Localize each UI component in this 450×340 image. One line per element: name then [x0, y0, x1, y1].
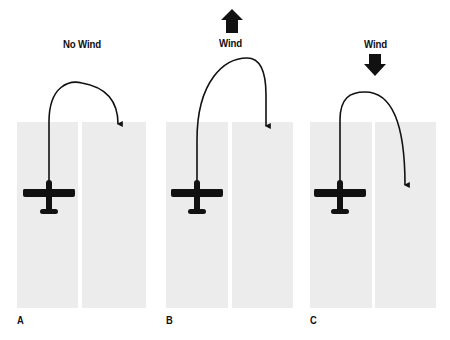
panel-label: C — [310, 314, 317, 326]
panel-title: Wind — [219, 37, 242, 49]
runway-strip-left — [17, 122, 78, 308]
panel-title: No Wind — [63, 38, 101, 50]
panel-a: No Wind A — [0, 0, 150, 340]
runway-strip-left — [166, 122, 228, 308]
runway-strip-right — [82, 122, 146, 308]
panel-c: Wind C — [300, 0, 450, 340]
runway-strip-right — [375, 122, 436, 308]
panel-b: Wind B — [150, 0, 300, 340]
runway-strip-left — [310, 122, 372, 308]
panel-title: Wind — [364, 38, 387, 50]
panel-label: A — [17, 314, 24, 326]
runway-strip-right — [232, 122, 293, 308]
panel-label: B — [166, 314, 173, 326]
